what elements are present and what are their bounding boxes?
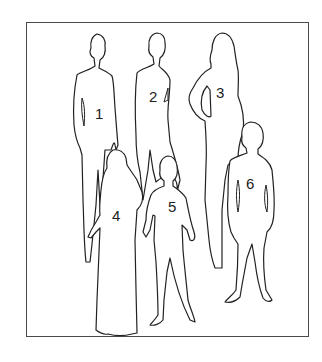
figure-label-2: 2	[149, 89, 157, 104]
silhouettes	[0, 0, 322, 362]
figure-label-1: 1	[95, 106, 103, 121]
figure-label-5: 5	[168, 199, 176, 214]
figure-label-4: 4	[112, 208, 120, 223]
figure-label-3: 3	[216, 85, 224, 100]
diagram-canvas: 1 2 3 4 5 6	[0, 0, 322, 362]
silhouette-5	[143, 156, 195, 325]
figure-label-6: 6	[246, 176, 254, 191]
